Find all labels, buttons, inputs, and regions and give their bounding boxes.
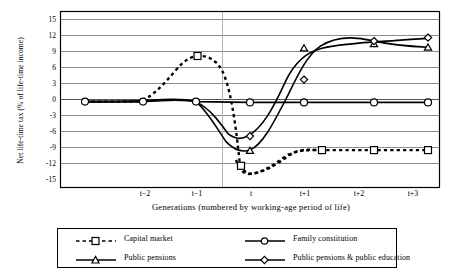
legend-key-triangle-solid-icon <box>76 252 116 264</box>
legend-item-capital-market[interactable]: Capital market <box>58 233 227 245</box>
series-capital-market <box>85 56 428 174</box>
legend-item-public-pensions[interactable]: Public pensions <box>58 252 227 264</box>
legend-key-square-dashed-icon <box>76 233 116 245</box>
series-public-pensions-and-education <box>85 38 428 138</box>
legend-label-public-pensions: Public pensions <box>124 253 176 262</box>
legend-item-public-pensions-and-education[interactable]: Public pensions & public education <box>227 252 396 264</box>
legend-label-public-pensions-and-education: Public pensions & public education <box>293 253 410 262</box>
series-public-pensions <box>85 38 428 151</box>
legend-key-circle-solid-icon <box>245 233 285 245</box>
markers-public-pensions <box>246 40 431 153</box>
chart-legend: Capital market Family constitution <box>57 228 397 268</box>
markers-capital-market <box>194 53 432 170</box>
chart-figure: Net life-time tax (% of life-time income… <box>0 0 455 275</box>
legend-label-capital-market: Capital market <box>124 234 173 243</box>
legend-key-diamond-solid-icon <box>245 252 285 264</box>
legend-label-family-constitution: Family constitution <box>293 234 357 243</box>
markers-public-pensions-and-education <box>246 34 431 140</box>
legend-item-family-constitution[interactable]: Family constitution <box>227 233 396 245</box>
